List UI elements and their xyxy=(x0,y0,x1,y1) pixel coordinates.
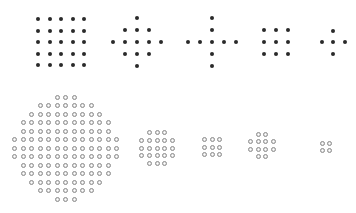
hollow-dot-icon xyxy=(12,154,17,159)
hollow-dot-icon xyxy=(63,95,68,100)
filled-dot-icon xyxy=(210,40,214,44)
filled-dot-icon xyxy=(59,29,63,33)
hollow-dot-icon xyxy=(89,137,94,142)
hollow-dot-icon xyxy=(46,137,51,142)
hollow-dot-icon xyxy=(38,146,43,151)
hollow-dot-icon xyxy=(38,137,43,142)
hollow-dot-icon xyxy=(21,129,26,134)
hollow-dot-icon xyxy=(63,103,68,108)
hollow-dot-icon xyxy=(202,152,207,157)
filled-dot-icon xyxy=(82,52,86,56)
hollow-dot-icon xyxy=(72,197,77,202)
hollow-dot-icon xyxy=(155,161,160,166)
filled-dot-icon xyxy=(331,29,335,33)
filled-dot-icon xyxy=(59,17,63,21)
hollow-dot-icon xyxy=(139,138,144,143)
hollow-dot-icon xyxy=(21,163,26,168)
hollow-dot-icon xyxy=(106,137,111,142)
hollow-dot-icon xyxy=(80,188,85,193)
hollow-dot-icon xyxy=(170,138,175,143)
hollow-dot-icon xyxy=(248,147,253,152)
hollow-dot-icon xyxy=(155,146,160,151)
hollow-dot-icon xyxy=(210,152,215,157)
hollow-dot-icon xyxy=(80,146,85,151)
hollow-dot-icon xyxy=(72,95,77,100)
filled-dot-icon xyxy=(36,17,40,21)
hollow-dot-icon xyxy=(72,137,77,142)
filled-dot-icon xyxy=(320,40,324,44)
hollow-dot-icon xyxy=(63,154,68,159)
hollow-dot-icon xyxy=(38,129,43,134)
hollow-dot-icon xyxy=(97,120,102,125)
filled-dot-icon xyxy=(123,28,127,32)
hollow-dot-icon xyxy=(256,154,261,159)
filled-dot-icon xyxy=(48,29,52,33)
filled-dot-icon xyxy=(36,40,40,44)
hollow-dot-icon xyxy=(29,137,34,142)
filled-dot-icon xyxy=(48,17,52,21)
hollow-dot-icon xyxy=(256,139,261,144)
hollow-dot-icon xyxy=(55,163,60,168)
hollow-dot-icon xyxy=(12,146,17,151)
filled-dot-icon xyxy=(82,29,86,33)
hollow-dot-icon xyxy=(147,130,152,135)
hollow-dot-icon xyxy=(327,148,332,153)
filled-dot-icon xyxy=(331,52,335,56)
filled-dot-icon xyxy=(71,17,75,21)
hollow-dot-icon xyxy=(63,137,68,142)
hollow-dot-icon xyxy=(72,103,77,108)
hollow-dot-icon xyxy=(12,137,17,142)
hollow-dot-icon xyxy=(89,129,94,134)
hollow-dot-icon xyxy=(106,154,111,159)
filled-dot-icon xyxy=(262,52,266,56)
hollow-dot-icon xyxy=(46,154,51,159)
hollow-dot-icon xyxy=(29,146,34,151)
filled-dot-icon xyxy=(36,29,40,33)
filled-dot-icon xyxy=(123,40,127,44)
hollow-dot-icon xyxy=(46,146,51,151)
hollow-dot-icon xyxy=(46,120,51,125)
hollow-dot-icon xyxy=(55,188,60,193)
hollow-dot-icon xyxy=(155,130,160,135)
hollow-dot-icon xyxy=(72,129,77,134)
hollow-dot-icon xyxy=(271,139,276,144)
hollow-dot-icon xyxy=(97,137,102,142)
hollow-dot-icon xyxy=(29,154,34,159)
hollow-dot-icon xyxy=(80,137,85,142)
filled-dot-icon xyxy=(135,52,139,56)
hollow-dot-icon xyxy=(147,153,152,158)
hollow-dot-icon xyxy=(263,139,268,144)
hollow-dot-icon xyxy=(72,163,77,168)
filled-dot-icon xyxy=(59,40,63,44)
hollow-dot-icon xyxy=(114,137,119,142)
hollow-dot-icon xyxy=(72,120,77,125)
filled-dot-icon xyxy=(71,63,75,67)
filled-dot-icon xyxy=(210,28,214,32)
hollow-dot-icon xyxy=(139,146,144,151)
hollow-dot-icon xyxy=(80,103,85,108)
hollow-dot-icon xyxy=(89,180,94,185)
hollow-dot-icon xyxy=(46,180,51,185)
hollow-dot-icon xyxy=(97,112,102,117)
hollow-dot-icon xyxy=(21,146,26,151)
filled-dot-icon xyxy=(286,52,290,56)
hollow-dot-icon xyxy=(63,163,68,168)
hollow-dot-icon xyxy=(89,154,94,159)
hollow-dot-icon xyxy=(55,112,60,117)
hollow-dot-icon xyxy=(155,153,160,158)
hollow-dot-icon xyxy=(38,154,43,159)
filled-dot-icon xyxy=(210,16,214,20)
hollow-dot-icon xyxy=(263,132,268,137)
filled-dot-icon xyxy=(123,52,127,56)
hollow-dot-icon xyxy=(63,171,68,176)
filled-dot-icon xyxy=(82,63,86,67)
hollow-dot-icon xyxy=(38,180,43,185)
filled-dot-icon xyxy=(82,17,86,21)
filled-dot-icon xyxy=(111,40,115,44)
hollow-dot-icon xyxy=(46,103,51,108)
hollow-dot-icon xyxy=(263,154,268,159)
hollow-dot-icon xyxy=(21,137,26,142)
hollow-dot-icon xyxy=(55,180,60,185)
hollow-dot-icon xyxy=(72,171,77,176)
hollow-dot-icon xyxy=(63,197,68,202)
